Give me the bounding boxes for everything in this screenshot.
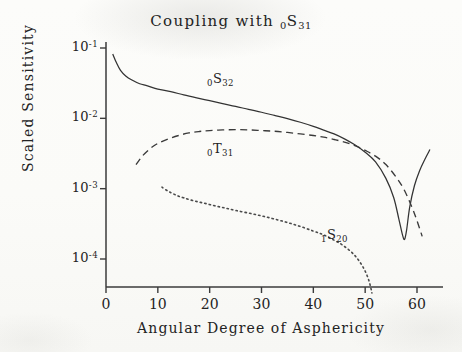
x-tick-label-3: 30 [242,296,282,312]
curve-label-sup: 20 [336,234,348,244]
y-tick-base: 10 [72,39,89,54]
curves-group [113,54,430,293]
y-tick-base: 10 [72,250,89,265]
x-tick-label-5: 50 [345,296,385,312]
x-tick-label-4: 40 [293,296,333,312]
axes-group [100,42,443,293]
curve-label-1S20: 1S20 [321,227,348,244]
y-tick-label-0: 10-1 [30,39,98,54]
curve-0S32 [113,54,430,240]
curve-label-0T31: 0T31 [207,141,234,158]
curve-0T31 [136,130,422,237]
y-tick-exponent: -2 [89,109,98,119]
curve-label-base: S [327,227,336,242]
y-tick-label-2: 10-3 [30,180,98,195]
y-tick-base: 10 [72,109,89,124]
x-tick-label-2: 20 [190,296,230,312]
x-tick-label-0: 0 [86,296,126,312]
y-tick-exponent: -1 [89,39,98,49]
curve-label-sup: 31 [222,147,234,157]
curve-label-0S32: 0S32 [207,71,234,88]
curve-label-sup: 32 [222,78,234,88]
y-tick-label-3: 10-4 [30,250,98,265]
y-tick-base: 10 [72,180,89,195]
curve-label-base: S [213,71,222,86]
x-tick-label-6: 60 [397,296,437,312]
figure-canvas: Coupling with 0S31 Scaled Sensitivity An… [0,0,462,352]
x-tick-label-1: 10 [138,296,178,312]
curve-label-base: T [213,141,222,156]
y-tick-exponent: -4 [89,250,98,260]
y-tick-exponent: -3 [89,180,98,190]
y-tick-label-1: 10-2 [30,109,98,124]
